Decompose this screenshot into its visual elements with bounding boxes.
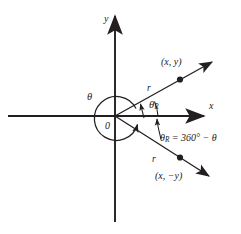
figure-canvas [0, 0, 241, 234]
lower-radius-label: r [152, 155, 156, 165]
reference-angle-subscript: R [154, 103, 158, 111]
upper-terminal-ray [115, 62, 212, 116]
lower-reflected-ray [115, 116, 209, 176]
reference-angle-figure: y x 0 θ θR (x, y) r r (x, −y) θR = 360° … [0, 0, 241, 234]
upper-point-dot [177, 76, 183, 82]
equation-rhs: = 360° − θ [172, 132, 217, 143]
x-axis-label: x [209, 101, 213, 111]
upper-radius-label: r [147, 84, 151, 94]
reference-angle-equation: θR = 360° − θ [160, 133, 217, 144]
y-axis-label: y [104, 14, 108, 24]
lower-point-label: (x, −y) [155, 171, 182, 181]
lower-point-dot [177, 154, 183, 160]
origin-label: 0 [105, 121, 110, 131]
reference-angle-label: θR [149, 100, 159, 111]
upper-point-label: (x, y) [161, 57, 182, 67]
theta-label: θ [87, 92, 92, 103]
